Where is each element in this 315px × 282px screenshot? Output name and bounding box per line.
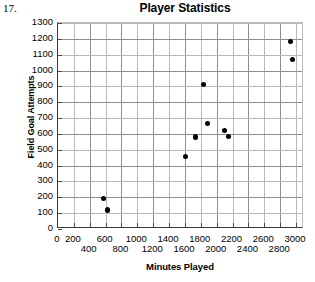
gridline-horizontal (58, 118, 302, 119)
x-axis-tick (137, 223, 138, 227)
y-axis-tick (58, 86, 62, 87)
y-axis-tick (58, 39, 62, 40)
x-axis-tick-label: 3000 (275, 234, 315, 244)
y-axis-tick-label: 500 (1, 144, 53, 154)
x-axis-tick-label: 2800 (259, 244, 299, 254)
gridline-horizontal (58, 102, 302, 103)
chart-title: Player Statistics (60, 1, 310, 15)
x-axis-tick (121, 223, 122, 227)
y-axis-tick (58, 229, 62, 230)
x-axis-tick (90, 223, 91, 227)
data-point (205, 121, 210, 126)
x-axis-tick (264, 223, 265, 227)
x-axis-tick (201, 223, 202, 227)
gridline-horizontal (58, 55, 302, 56)
y-axis-tick (58, 197, 62, 198)
plot-area (57, 22, 303, 228)
data-point (226, 134, 231, 139)
x-axis-tick (185, 223, 186, 227)
gridline-horizontal (58, 86, 302, 87)
x-axis-tick (217, 223, 218, 227)
y-axis-tick-label: 200 (1, 191, 53, 201)
gridline-horizontal (58, 197, 302, 198)
x-axis-tick (233, 223, 234, 227)
y-axis-tick-label: 900 (1, 80, 53, 90)
x-axis-tick (248, 223, 249, 227)
gridline-horizontal (58, 150, 302, 151)
y-axis-tick (58, 213, 62, 214)
y-axis-tick (58, 134, 62, 135)
y-axis-tick-label: 0 (1, 223, 53, 233)
data-point (193, 134, 198, 139)
data-point (222, 128, 227, 133)
gridline-horizontal (58, 166, 302, 167)
chart-figure: 17. Player Statistics Field Goal Attempt… (0, 0, 315, 282)
y-axis-tick-label: 700 (1, 112, 53, 122)
y-axis-tick-label: 800 (1, 96, 53, 106)
gridline-horizontal (58, 213, 302, 214)
gridline-horizontal (58, 23, 302, 24)
y-axis-tick-label: 600 (1, 128, 53, 138)
y-axis-tick-label: 1100 (1, 49, 53, 59)
data-point (101, 196, 106, 201)
y-axis-tick (58, 71, 62, 72)
y-axis-tick (58, 102, 62, 103)
gridline-horizontal (58, 39, 302, 40)
y-axis-tick-label: 1000 (1, 65, 53, 75)
x-axis-label: Minutes Played (57, 261, 303, 272)
data-point (288, 39, 293, 44)
y-axis-tick-label: 100 (1, 207, 53, 217)
question-number: 17. (3, 2, 17, 14)
y-axis-tick-label: 1200 (1, 33, 53, 43)
gridline-horizontal (58, 71, 302, 72)
data-point (105, 207, 110, 212)
y-axis-tick (58, 166, 62, 167)
y-axis-tick-label: 300 (1, 175, 53, 185)
y-axis-tick (58, 181, 62, 182)
x-axis-tick (153, 223, 154, 227)
y-axis-tick (58, 150, 62, 151)
gridline-horizontal (58, 134, 302, 135)
gridline-horizontal (58, 181, 302, 182)
y-axis-tick (58, 118, 62, 119)
y-axis-tick-label: 400 (1, 160, 53, 170)
y-axis-tick (58, 55, 62, 56)
data-point (183, 154, 188, 159)
y-axis-tick-label: 1300 (1, 17, 53, 27)
y-axis-tick (58, 23, 62, 24)
x-axis-tick (169, 223, 170, 227)
data-point (290, 57, 295, 62)
x-axis-tick (280, 223, 281, 227)
x-axis-tick (106, 223, 107, 227)
x-axis-tick (74, 223, 75, 227)
x-axis-tick (296, 223, 297, 227)
